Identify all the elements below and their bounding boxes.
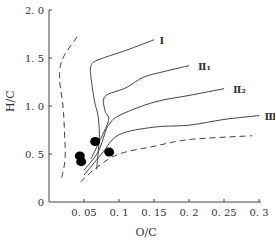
x-tick-label: 0. 25	[211, 207, 236, 218]
x-tick-label: 0. 2	[179, 207, 198, 218]
y-axis-title: H/C	[4, 90, 17, 112]
van-krevelen-chart: 00. 51. 01. 52. 00. 050. 10. 150. 20. 25…	[0, 0, 275, 242]
curve-boundary-bottom	[81, 136, 253, 182]
curve-boundary-left	[60, 37, 78, 178]
curve-label: Ⅲ	[265, 111, 276, 122]
y-tick-label: 0	[38, 197, 44, 208]
data-point-marker	[90, 137, 100, 146]
data-point-marker	[104, 148, 114, 157]
curve-label: Ⅱ₁	[198, 61, 211, 72]
x-tick-label: 0. 05	[71, 207, 96, 218]
chart-svg: 00. 51. 01. 52. 00. 050. 10. 150. 20. 25…	[0, 0, 275, 242]
x-axis-title: O/C	[135, 226, 156, 239]
curve-line	[91, 66, 189, 159]
axes: 00. 51. 01. 52. 00. 050. 10. 150. 20. 25…	[25, 5, 269, 219]
curves	[60, 37, 260, 182]
y-tick-label: 0. 5	[25, 149, 44, 160]
curve-line	[84, 116, 259, 176]
curve-line	[90, 40, 154, 170]
y-tick-label: 1. 5	[25, 53, 44, 64]
x-tick-label: 0. 15	[141, 207, 166, 218]
y-tick-label: 2. 0	[25, 5, 44, 16]
curve-label: Ⅱ₂	[233, 84, 246, 95]
data-point-marker	[76, 157, 86, 166]
y-tick-label: 1. 0	[25, 101, 44, 112]
x-tick-label: 0. 3	[249, 207, 268, 218]
curve-label: Ⅰ	[160, 35, 165, 46]
curve-labels: ⅠⅡ₁Ⅱ₂Ⅲ	[160, 35, 276, 122]
x-tick-label: 0. 1	[109, 207, 128, 218]
